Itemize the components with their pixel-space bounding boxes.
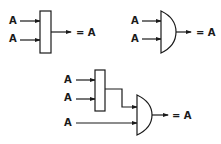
output-label: = A xyxy=(76,27,96,38)
input-label: A xyxy=(64,117,72,128)
output-label: = A xyxy=(172,110,192,121)
diagram-or: A A = A xyxy=(9,11,96,53)
input-label: A xyxy=(131,33,139,44)
output-label: = A xyxy=(196,27,216,38)
and-gate xyxy=(161,11,176,53)
input-label: A xyxy=(131,15,139,26)
input-label: A xyxy=(64,92,72,103)
or-gate xyxy=(95,70,105,111)
or-gate xyxy=(40,11,51,53)
input-label: A xyxy=(64,74,72,85)
and-gate xyxy=(137,95,152,135)
logic-diagram: A A = A A A = A A A A = A xyxy=(0,0,221,144)
diagram-and: A A = A xyxy=(131,11,216,53)
input-label: A xyxy=(9,15,17,26)
diagram-combined: A A A = A xyxy=(64,70,192,135)
input-label: A xyxy=(9,33,17,44)
intermediate-wire xyxy=(105,89,137,107)
